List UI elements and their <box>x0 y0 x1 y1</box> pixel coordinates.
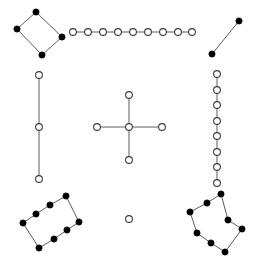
graph-node-open <box>94 124 101 131</box>
graph-node-filled <box>59 34 65 40</box>
component-nodes-bottom-right-rectangle <box>187 191 245 255</box>
graph-node-open <box>115 29 122 36</box>
graph-node-open <box>126 92 133 99</box>
graph-canvas <box>0 0 258 257</box>
graph-node-open <box>36 124 43 131</box>
graph-node-open <box>160 29 167 36</box>
graph-node-filled <box>194 230 200 236</box>
graph-node-filled <box>51 236 57 242</box>
graph-node-open <box>126 157 133 164</box>
graph-node-open <box>189 29 196 36</box>
component-nodes-center-star <box>94 92 166 164</box>
node-layer <box>14 9 245 255</box>
graph-node-open <box>36 72 43 79</box>
graph-node-filled <box>14 26 20 32</box>
graph-node-filled <box>76 219 82 225</box>
graph-node-open <box>100 29 107 36</box>
graph-node-filled <box>64 227 70 233</box>
component-nodes-bottom-left-rectangle <box>20 193 82 251</box>
graph-node-filled <box>47 202 53 208</box>
graph-node-filled <box>63 193 69 199</box>
graph-node-open <box>130 29 137 36</box>
component-nodes-top-horizontal-chain <box>70 29 196 36</box>
graph-edge <box>221 194 228 220</box>
graph-edge <box>212 21 239 54</box>
graph-node-filled <box>33 9 39 15</box>
graph-edge <box>225 229 242 252</box>
graph-node-filled <box>204 200 210 206</box>
graph-node-open <box>214 118 221 125</box>
graph-edge <box>23 223 39 248</box>
graph-node-open <box>214 71 221 78</box>
graph-node-open <box>70 29 77 36</box>
graph-node-filled <box>187 209 193 215</box>
graph-node-open <box>85 29 92 36</box>
graph-node-open <box>214 164 221 171</box>
graph-node-open <box>214 180 221 187</box>
graph-node-filled <box>222 249 228 255</box>
component-nodes-isolated-node <box>126 216 133 223</box>
graph-node-filled <box>33 211 39 217</box>
graph-edge <box>17 29 42 55</box>
component-edges-top-right-segment <box>212 21 239 54</box>
graph-node-open <box>214 149 221 156</box>
graph-node-filled <box>236 18 242 24</box>
graph-node-open <box>175 29 182 36</box>
component-edges-top-left-diamond <box>17 12 62 55</box>
graph-edge <box>66 196 79 222</box>
graph-node-filled <box>239 226 245 232</box>
graph-node-open <box>36 176 43 183</box>
graph-figure <box>0 0 258 257</box>
graph-node-open <box>126 216 133 223</box>
graph-node-filled <box>39 52 45 58</box>
graph-node-open <box>214 133 221 140</box>
graph-node-filled <box>209 51 215 57</box>
graph-edge <box>36 12 62 37</box>
component-edges-bottom-right-rectangle <box>190 194 242 252</box>
graph-edge <box>42 37 62 55</box>
graph-node-open <box>126 124 133 131</box>
graph-node-filled <box>36 245 42 251</box>
graph-node-open <box>214 87 221 94</box>
graph-node-filled <box>218 191 224 197</box>
graph-edge <box>17 12 36 29</box>
graph-node-filled <box>225 217 231 223</box>
graph-node-filled <box>208 240 214 246</box>
graph-node-filled <box>20 220 26 226</box>
graph-node-open <box>145 29 152 36</box>
graph-node-open <box>159 124 166 131</box>
graph-node-open <box>214 102 221 109</box>
